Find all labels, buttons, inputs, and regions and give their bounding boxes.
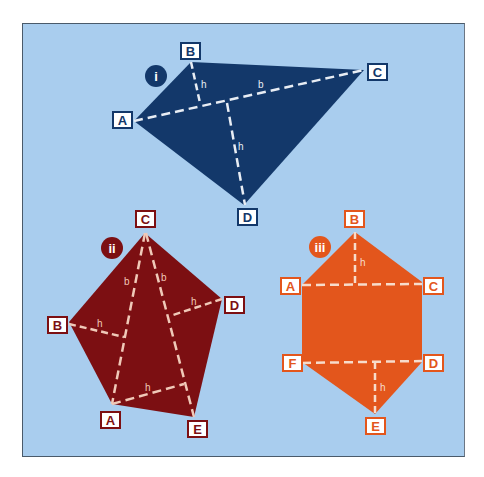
vertex-B-ii: B <box>48 317 67 333</box>
vertex-D-iii: D <box>424 355 443 371</box>
svg-text:D: D <box>243 210 252 225</box>
vertex-B-i: B <box>181 43 200 59</box>
vertex-A-ii: A <box>101 412 120 428</box>
vertex-E-ii: E <box>188 421 207 437</box>
svg-text:C: C <box>141 212 151 227</box>
svg-text:D: D <box>429 356 438 371</box>
vertex-C-i: C <box>368 64 387 80</box>
svg-text:F: F <box>289 356 297 371</box>
shapes-canvas: h b h i A B C D b b h h h <box>0 0 484 477</box>
svg-text:A: A <box>106 413 116 428</box>
quadrilateral-i <box>134 62 364 205</box>
label-h-bottom: h <box>380 382 386 393</box>
svg-text:A: A <box>118 113 128 128</box>
svg-text:B: B <box>350 212 359 227</box>
label-b: b <box>258 79 264 90</box>
label-h-top: h <box>360 257 366 268</box>
vertex-C-iii: C <box>424 278 443 294</box>
vertex-D-i: D <box>238 209 257 225</box>
vertex-A-iii: A <box>281 278 300 294</box>
vertex-D-ii: D <box>225 297 244 313</box>
vertex-C-ii: C <box>136 211 155 227</box>
line-AC <box>302 284 422 285</box>
label-h-B: h <box>97 318 103 329</box>
vertex-B-iii: B <box>345 211 364 227</box>
label-h-D: h <box>191 296 197 307</box>
label-h-top: h <box>201 79 207 90</box>
svg-text:B: B <box>186 44 195 59</box>
vertex-A-i: A <box>113 112 132 128</box>
svg-text:C: C <box>429 279 439 294</box>
badge-iii-text: iii <box>315 240 326 255</box>
label-h-bottom: h <box>238 141 244 152</box>
label-b-left: b <box>124 276 130 287</box>
shape-iii: h h iii A B C D E F <box>281 211 443 434</box>
vertex-F-iii: F <box>283 355 302 371</box>
shape-i: h b h i A B C D <box>113 43 387 225</box>
svg-text:A: A <box>286 279 296 294</box>
shape-ii: b b h h h ii A B C D E <box>48 211 244 437</box>
svg-text:C: C <box>373 65 383 80</box>
badge-i-text: i <box>154 69 158 84</box>
svg-text:E: E <box>371 419 380 434</box>
vertex-E-iii: E <box>366 418 385 434</box>
svg-text:E: E <box>193 422 202 437</box>
badge-ii-text: ii <box>108 241 115 256</box>
label-b-right: b <box>161 272 167 283</box>
svg-text:D: D <box>230 298 239 313</box>
label-h-E: h <box>145 382 151 393</box>
svg-text:B: B <box>53 318 62 333</box>
